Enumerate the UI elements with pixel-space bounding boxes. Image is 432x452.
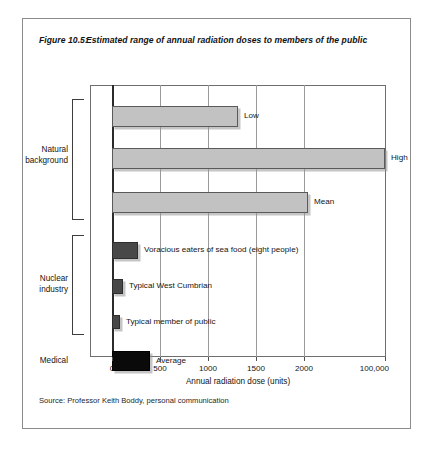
group-label: Nuclearindustry: [23, 274, 68, 295]
group-label-line: Nuclear: [23, 274, 68, 285]
group-label-line: Natural: [23, 145, 68, 156]
bar: [112, 315, 120, 329]
x-tick-mark: [385, 357, 386, 361]
x-tick-label: 0: [110, 364, 115, 373]
bar-label: Mean: [314, 198, 334, 206]
bar-label: Low: [244, 112, 259, 120]
bar: [112, 351, 150, 371]
bar: [112, 279, 123, 294]
x-tick-label: 1000: [199, 364, 217, 373]
source-note: Source: Professor Keith Boddy, personal …: [39, 396, 229, 405]
figure-number: Figure 10.5:: [39, 35, 86, 45]
bar: [112, 242, 138, 259]
x-axis-title: Annual radiation dose (units): [90, 377, 386, 386]
x-tick-mark: [112, 357, 113, 361]
x-tick-label: 100,000: [360, 364, 389, 373]
group-label-line: industry: [23, 285, 68, 296]
chart-area: LowHighMeanVoracious eaters of sea food …: [23, 59, 412, 389]
bar-label: Typical West Cumbrian: [129, 282, 212, 290]
group-bracket: [72, 99, 84, 220]
x-tick-mark: [304, 357, 305, 361]
bar: [112, 192, 308, 213]
bar-label: Typical member of public: [126, 318, 216, 326]
group-label: Medical: [23, 356, 68, 367]
group-bracket: [72, 235, 84, 335]
figure-title: Estimated range of annual radiation dose…: [86, 35, 367, 45]
bar: [112, 148, 385, 169]
x-tick-label: 500: [153, 364, 167, 373]
figure-panel: Figure 10.5:Estimated range of annual ra…: [22, 18, 411, 429]
group-label-line: background: [23, 156, 68, 167]
bar: [112, 106, 238, 127]
figure-caption: Figure 10.5:Estimated range of annual ra…: [39, 35, 399, 45]
x-tick-mark: [160, 357, 161, 361]
group-label: Naturalbackground: [23, 145, 68, 166]
bars-layer: LowHighMeanVoracious eaters of sea food …: [90, 85, 386, 357]
x-tick-mark: [208, 357, 209, 361]
x-tick-label: 1500: [247, 364, 265, 373]
bar-label: Voracious eaters of sea food (eight peop…: [144, 246, 298, 254]
group-label-line: Medical: [23, 356, 68, 367]
bar-label: High: [391, 154, 408, 162]
x-tick-label: 2000: [295, 364, 313, 373]
y-axis-groups: NaturalbackgroundNuclearindustryMedical: [23, 59, 90, 357]
x-tick-mark: [256, 357, 257, 361]
